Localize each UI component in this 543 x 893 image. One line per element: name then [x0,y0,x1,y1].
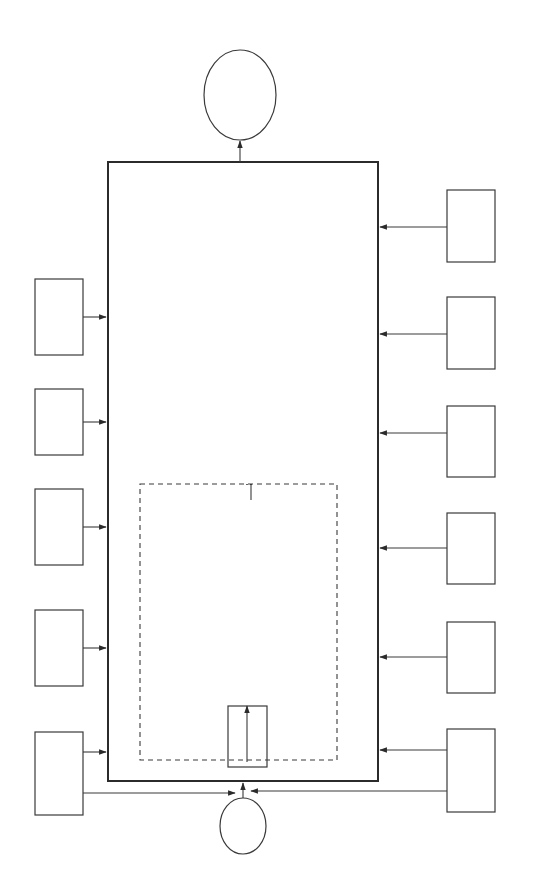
process-diagram [0,0,543,893]
support-supply [35,389,83,455]
support-food-service [447,297,495,369]
start-node-patient-in-need [220,798,266,854]
support-organizational [447,729,495,812]
support-financial [447,406,495,477]
support-equipment [447,190,495,262]
support-campus-security [35,489,83,565]
core-process-boundary [108,162,378,781]
support-information-communication [35,279,83,355]
support-maintain-facility [447,513,495,584]
support-human-resources [447,622,495,693]
support-medical-staff [35,732,83,815]
support-quality [35,610,83,686]
end-node-patient-outcome [204,50,276,140]
